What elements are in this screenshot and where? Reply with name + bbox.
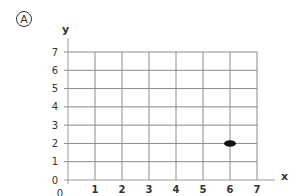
- y-tick-label: 4: [52, 101, 58, 112]
- data-points: [224, 140, 236, 146]
- y-tick-label: 0: [52, 175, 58, 186]
- y-tick-label: 7: [52, 47, 58, 58]
- y-tick-labels: 01234567: [52, 47, 58, 186]
- x-tick-label: 3: [146, 184, 153, 195]
- x-tick-label: 4: [173, 184, 180, 195]
- x-axis-label: x: [281, 170, 288, 183]
- y-tick-label: 5: [52, 83, 58, 94]
- y-tick-label: 2: [52, 138, 58, 149]
- x-tick-labels: 01234567: [57, 184, 261, 196]
- coordinate-grid-chart: 01234567 01234567 x y: [0, 0, 302, 196]
- y-tick-label: 1: [52, 156, 58, 167]
- grid-lines: [64, 52, 257, 180]
- x-tick-label: 5: [200, 184, 207, 195]
- y-tick-label: 6: [52, 65, 58, 76]
- data-point: [224, 140, 236, 146]
- x-tick-label: 1: [92, 184, 99, 195]
- x-tick-label: 0: [57, 188, 63, 196]
- y-tick-label: 3: [52, 120, 58, 131]
- x-tick-label: 7: [254, 184, 261, 195]
- y-axis-label: y: [62, 23, 69, 36]
- x-tick-label: 2: [119, 184, 126, 195]
- x-tick-label: 6: [227, 184, 234, 195]
